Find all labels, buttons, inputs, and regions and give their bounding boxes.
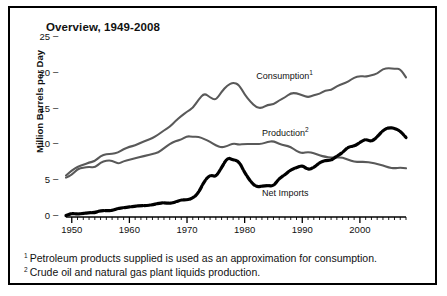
footnote: 2Crude oil and natural gas plant liquids… — [24, 265, 444, 279]
footnote-ref-2: 2 — [305, 126, 309, 133]
y-tick-label: 5 — [24, 174, 50, 185]
y-tick-label: 0 — [24, 210, 50, 221]
y-tick-mark: – — [53, 209, 58, 220]
series-label-net-imports: Net Imports — [262, 188, 309, 198]
footnotes-block: 1Petroleum products supplied is used as … — [24, 251, 444, 279]
plot-area — [10, 8, 439, 287]
y-tick-mark: – — [53, 137, 58, 148]
x-axis-ticks — [72, 217, 406, 223]
x-tick-label: 1970 — [170, 224, 204, 235]
y-tick-label: 25 — [24, 31, 50, 42]
y-tick-mark: – — [53, 102, 58, 113]
x-tick-label: 1960 — [112, 224, 146, 235]
series-line-production — [66, 136, 406, 177]
footnote-text: Petroleum products supplied is used as a… — [30, 252, 377, 264]
y-tick-mark: – — [53, 173, 58, 184]
footnote-marker: 1 — [24, 252, 28, 259]
series-line-net-imports — [66, 128, 406, 216]
series-label-consumption: Consumption1 — [256, 71, 313, 81]
y-tick-label: 15 — [24, 103, 50, 114]
x-tick-label: 1980 — [228, 224, 262, 235]
chart-frame: Overview, 1949-2008 Million Barrels per … — [8, 6, 437, 285]
footnote: 1Petroleum products supplied is used as … — [24, 251, 444, 265]
y-tick-label: 10 — [24, 138, 50, 149]
data-series-group — [66, 68, 406, 215]
series-label-production: Production2 — [262, 128, 309, 138]
chart-figure: Overview, 1949-2008 Million Barrels per … — [0, 0, 447, 296]
y-tick-mark: – — [53, 66, 58, 77]
footnote-ref-1: 1 — [309, 69, 313, 76]
x-tick-label: 1950 — [55, 224, 89, 235]
y-tick-label: 20 — [24, 67, 50, 78]
footnote-marker: 2 — [24, 266, 28, 273]
x-tick-label: 2000 — [343, 224, 377, 235]
footnote-text: Crude oil and natural gas plant liquids … — [30, 266, 261, 278]
x-tick-label: 1990 — [285, 224, 319, 235]
y-tick-mark: – — [53, 30, 58, 41]
